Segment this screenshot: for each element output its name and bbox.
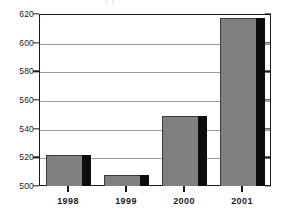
x-axis-tick-mark-1998 [67, 186, 68, 192]
x-axis-tick-label-1998: 1998 [38, 196, 98, 206]
y-axis-tick-label-520: 520 [0, 152, 34, 162]
y-axis-tick-label-540: 540 [0, 124, 34, 134]
bars-layer [39, 14, 271, 186]
x-axis-tick-label-2001: 2001 [212, 196, 272, 206]
bar-1998 [46, 155, 91, 187]
chart-title-fragment: ( ) [105, 0, 285, 5]
y-axis-tick-label-500: 500 [0, 181, 34, 191]
bar-face-2001 [220, 18, 256, 186]
x-axis-tick-label-1999: 1999 [96, 196, 156, 206]
bar-face-2000 [162, 116, 198, 186]
y-axis-tick-label-580: 580 [0, 66, 34, 76]
bar-2000 [162, 116, 207, 186]
bar-side-1998 [82, 155, 91, 187]
y-axis-tick-label-560: 560 [0, 95, 34, 105]
y-axis-tick-label-600: 600 [0, 38, 34, 48]
bar-1999 [104, 175, 149, 187]
bar-side-1999 [140, 175, 149, 187]
bar-side-2000 [198, 116, 207, 186]
x-axis-tick-mark-1999 [125, 186, 126, 192]
x-axis-tick-mark-2001 [241, 186, 242, 192]
bar-2001 [220, 18, 265, 186]
bar-chart: ( ) 500520540560580600620 19981999200020… [0, 0, 288, 218]
bar-side-2001 [256, 18, 265, 186]
x-axis-tick-label-2000: 2000 [154, 196, 214, 206]
x-axis-tick-mark-2000 [183, 186, 184, 192]
y-axis-tick-label-620: 620 [0, 9, 34, 19]
bar-face-1998 [46, 155, 82, 187]
bar-face-1999 [104, 175, 140, 187]
